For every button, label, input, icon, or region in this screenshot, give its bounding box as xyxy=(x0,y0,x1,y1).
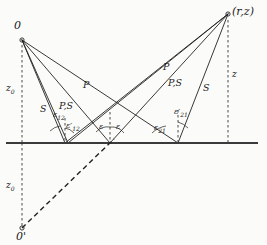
angle-label-eps-12: ε12 xyxy=(53,111,65,121)
ray-label-ps-left: P,S xyxy=(59,101,73,111)
ray-label-s-right: S xyxy=(203,83,210,93)
eps-12-prime-sub: 12 xyxy=(72,125,80,132)
receiver-label: (r,z) xyxy=(232,6,254,17)
receiver-depth-label: z xyxy=(232,70,237,79)
eps-21-prime-sub: 21 xyxy=(180,111,188,118)
dashed-guides xyxy=(22,20,228,228)
diagram-canvas xyxy=(0,0,267,245)
angle-label-eps-21: ε21 xyxy=(154,124,166,134)
solid-rays xyxy=(22,14,228,143)
image-source-label: 0' xyxy=(16,231,26,242)
source-label: 0 xyxy=(14,20,21,31)
ray-label-ps-right: P,S xyxy=(168,78,182,88)
ray-label-p-right: P xyxy=(163,62,169,72)
angle-label-eps-left: ε xyxy=(99,123,103,131)
depth-upper-label: z0 xyxy=(6,84,15,95)
angle-label-eps-right: ε xyxy=(116,123,120,131)
depth-lower-label: z0 xyxy=(6,181,15,192)
depth-upper-sub: 0 xyxy=(11,88,15,95)
image-source-dashed-ray xyxy=(22,139,114,228)
eps-21-sub: 21 xyxy=(158,127,166,134)
eps-12-sub: 12 xyxy=(57,114,65,121)
arc-eps-21-prime xyxy=(178,122,188,128)
depth-lower-sub: 0 xyxy=(11,185,15,192)
angle-label-eps-12-prime: ε′12 xyxy=(66,122,80,132)
ray-label-p-left: P xyxy=(83,80,89,90)
ray-label-s-left: S xyxy=(40,104,47,114)
ray-path-figure: 0 (r,z) 0' z0 z0 z P P,S S P P,S S ε12 ε… xyxy=(0,0,267,245)
angle-label-eps-21-prime: ε′21 xyxy=(174,108,188,118)
